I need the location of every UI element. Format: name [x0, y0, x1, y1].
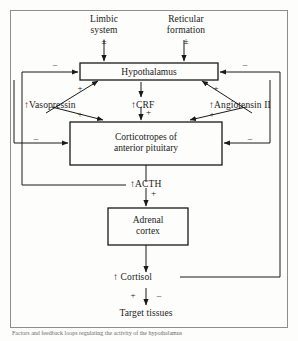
node-limbic-system: Limbic system: [90, 14, 118, 35]
corticotropes-line2: anterior pituitary: [114, 143, 178, 154]
sign-cort-feedback-left: –: [34, 134, 39, 143]
limbic-line2: system: [90, 25, 118, 36]
sign-crf-to-cort: +: [146, 108, 151, 117]
acth-label: ACTH: [135, 179, 161, 189]
sign-acth-to-adrenal: +: [151, 189, 156, 198]
node-target-tissues: Target tissues: [119, 308, 172, 319]
sign-angiotensin-to-cort: +: [209, 110, 214, 119]
sign-hypo-to-vasopressin: +: [77, 84, 82, 93]
sign-cortisol-target-plus: +: [130, 291, 135, 300]
corticotropes-label: Corticotropes of anterior pituitary: [114, 132, 178, 154]
sign-cort-feedback-right: –: [248, 134, 253, 143]
mediator-acth: ↑ACTH: [130, 179, 161, 190]
sign-hypo-feedback-right: –: [243, 60, 248, 69]
sign-vasopressin-to-cort: +: [77, 110, 82, 119]
up-arrow-icon: ↑: [113, 271, 118, 282]
adrenal-line1: Adrenal: [133, 215, 164, 226]
angiotensin-label: Angiotensin II: [214, 100, 271, 110]
diagram-lines: [0, 0, 298, 341]
diagram-page: Limbic system ± Reticular formation ± Hy…: [0, 0, 298, 341]
hypothalamus-label: Hypothalamus: [121, 67, 176, 78]
sign-reticular-input: ±: [184, 37, 189, 46]
reticular-line2: formation: [167, 25, 205, 36]
sign-hypo-to-angiotensin: +: [213, 84, 218, 93]
vasopressin-label: Vasopressin: [29, 100, 76, 110]
mediator-cortisol: ↑ Cortisol: [113, 272, 152, 283]
adrenal-cortex-label: Adrenal cortex: [133, 215, 164, 237]
mediator-angiotensin: ↑Angiotensin II: [209, 100, 271, 111]
node-reticular-formation: Reticular formation: [167, 14, 205, 35]
corticotropes-line1: Corticotropes of: [114, 132, 178, 143]
sign-cortisol-target-minus: –: [157, 291, 162, 300]
mediator-vasopressin: ↑Vasopressin: [24, 100, 76, 111]
limbic-line1: Limbic: [90, 14, 118, 25]
reticular-line1: Reticular: [167, 14, 205, 25]
cortisol-label: Cortisol: [121, 272, 152, 282]
figure-caption: Factors and feedback loops regulating th…: [12, 330, 288, 337]
adrenal-line2: cortex: [133, 226, 164, 237]
sign-limbic-input: ±: [102, 37, 107, 46]
sign-hypo-feedback-left: –: [53, 60, 58, 69]
